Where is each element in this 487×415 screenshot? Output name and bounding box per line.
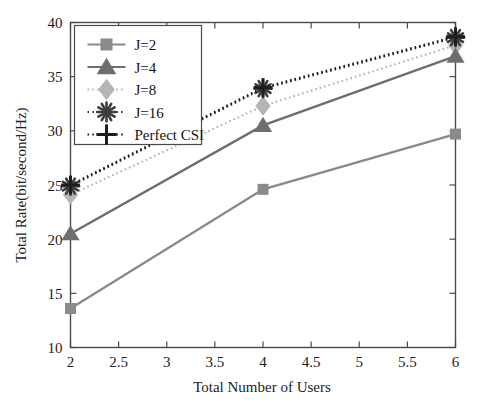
- chart-figure: 22.533.544.555.56 10152025303540 Total N…: [0, 0, 487, 415]
- marker-square: [258, 184, 269, 195]
- y-tick-label: 40: [48, 15, 63, 31]
- legend-label: Perfect CSI: [135, 127, 205, 143]
- x-tick-label: 4.5: [302, 354, 321, 370]
- y-tick-label: 10: [48, 340, 63, 356]
- y-tick-label: 25: [48, 178, 63, 194]
- y-tick-label: 20: [48, 232, 63, 248]
- legend-label: J=4: [135, 60, 157, 76]
- marker-square: [65, 303, 76, 314]
- y-tick-label: 35: [48, 69, 63, 85]
- x-tick-label: 5.5: [398, 354, 417, 370]
- x-tick-label: 6: [452, 354, 460, 370]
- marker-square: [450, 129, 461, 140]
- chart-legend: J=2J=4J=8J=16Perfect CSI: [75, 26, 205, 145]
- x-tick-label: 5: [356, 354, 364, 370]
- line-chart-svg: 22.533.544.555.56 10152025303540 Total N…: [0, 0, 487, 415]
- x-tick-label: 4: [259, 354, 267, 370]
- y-tick-label: 15: [48, 286, 63, 302]
- x-tick-label: 2: [67, 354, 75, 370]
- x-axis-tick-labels: 22.533.544.555.56: [67, 354, 460, 370]
- y-tick-label: 30: [48, 123, 63, 139]
- legend-label: J=8: [135, 82, 157, 98]
- legend-label: J=16: [135, 105, 165, 121]
- legend-label: J=2: [135, 37, 157, 53]
- marker-square: [101, 39, 113, 51]
- x-tick-label: 2.5: [109, 354, 128, 370]
- x-axis-title: Total Number of Users: [193, 379, 331, 395]
- x-tick-label: 3.5: [206, 354, 225, 370]
- x-tick-label: 3: [163, 354, 171, 370]
- y-axis-title: Total Rate(bit/second/Hz): [13, 107, 30, 262]
